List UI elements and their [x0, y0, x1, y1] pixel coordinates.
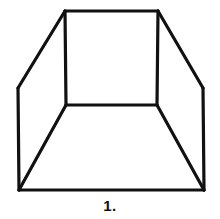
figure-caption: 1.: [0, 197, 220, 215]
back-wall-right-edge: [157, 11, 158, 105]
floor-left-diagonal-edge: [19, 105, 66, 190]
right-outer-vertical-edge: [203, 88, 204, 190]
perspective-box-drawing: [0, 0, 220, 219]
back-wall-left-edge: [65, 11, 66, 105]
left-outer-vertical-edge: [18, 88, 19, 190]
floor-right-diagonal-edge: [157, 105, 204, 190]
top-right-diagonal-edge: [158, 11, 203, 88]
top-left-diagonal-edge: [18, 11, 65, 88]
figure-page: 1.: [0, 0, 220, 219]
